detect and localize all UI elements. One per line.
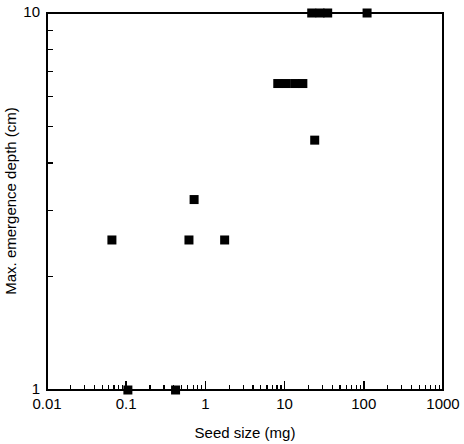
chart-figure: 0.010.11101001000 110 Seed size (mg) Max… [0, 0, 464, 444]
data-point [323, 9, 332, 18]
x-tick-label: 1000 [426, 395, 459, 412]
data-point [290, 79, 299, 88]
data-point [282, 79, 291, 88]
data-point [363, 9, 372, 18]
axis-frame-path [47, 13, 443, 390]
y-tick-label: 1 [32, 380, 40, 397]
scatter-plot: 0.010.11101001000 110 Seed size (mg) Max… [0, 0, 464, 444]
x-tick-label: 1 [201, 395, 209, 412]
data-point [184, 235, 193, 244]
data-point [273, 79, 282, 88]
axis-frame [47, 13, 443, 390]
x-tick-label: 0.1 [116, 395, 137, 412]
y-axis-title: Max. emergence depth (cm) [2, 107, 19, 295]
data-point [107, 235, 116, 244]
x-axis-ticks [47, 381, 443, 390]
data-point [220, 235, 229, 244]
x-axis-tick-labels: 0.010.11101001000 [32, 395, 459, 412]
y-axis-tick-labels: 110 [23, 3, 40, 397]
data-point [310, 136, 319, 145]
data-point [171, 386, 180, 395]
y-axis-ticks [47, 13, 56, 390]
x-axis-title: Seed size (mg) [195, 424, 296, 441]
x-tick-label: 0.01 [32, 395, 61, 412]
data-point [307, 9, 316, 18]
data-point [190, 195, 199, 204]
data-point [298, 79, 307, 88]
x-tick-label: 10 [276, 395, 293, 412]
data-point-series [107, 9, 371, 395]
data-point [316, 9, 325, 18]
y-tick-label: 10 [23, 3, 40, 20]
data-point [123, 386, 132, 395]
x-tick-label: 100 [351, 395, 376, 412]
